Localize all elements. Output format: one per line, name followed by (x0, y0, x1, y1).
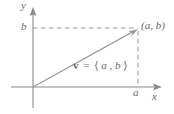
x-intercept-label-a: a (133, 87, 139, 98)
vector-diagram: y x b a (a, b) v = ⟨ a , b ⟩ (0, 0, 174, 114)
angle-bracket-open-icon: ⟨ (94, 59, 98, 71)
y-axis-label: y (21, 0, 26, 11)
vector-component-a: a (101, 59, 107, 71)
y-intercept-label-b: b (21, 21, 27, 32)
vector-symbol: v (73, 59, 79, 71)
vector-equation-label: v = ⟨ a , b ⟩ (73, 60, 128, 71)
vector-component-b: b (115, 59, 121, 71)
x-axis-label: x (152, 91, 157, 102)
equals-sign: = (81, 59, 91, 71)
diagram-canvas (0, 0, 174, 114)
angle-bracket-close-icon: ⟩ (123, 59, 127, 71)
point-coordinate-label: (a, b) (141, 20, 165, 31)
